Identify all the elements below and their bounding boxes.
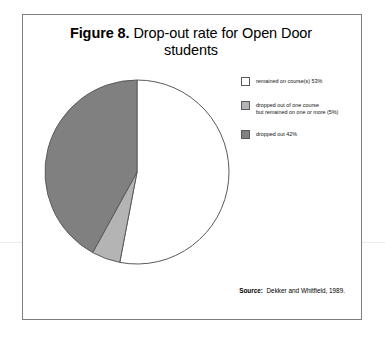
figure-caption: Drop-out rate for Open Door students: [133, 25, 312, 58]
legend: remained on course(s) 53% dropped out of…: [241, 77, 357, 154]
figure-frame: Figure 8. Drop-out rate for Open Door st…: [22, 14, 362, 320]
legend-swatch-remained-icon: [241, 77, 250, 86]
source-text: Dekker and Whitfield, 1989.: [266, 287, 345, 294]
pie-chart: [42, 77, 232, 267]
legend-item-label: remained on course(s) 53%: [256, 77, 322, 85]
legend-item-droppedout[interactable]: dropped out 42%: [241, 130, 357, 139]
page-title: Figure 8. Drop-out rate for Open Door st…: [41, 25, 341, 59]
legend-item-remained[interactable]: remained on course(s) 53%: [241, 77, 357, 86]
figure-label: Figure 8.: [70, 25, 130, 41]
legend-swatch-partial-icon: [241, 101, 250, 110]
source-attribution: Source: Dekker and Whitfield, 1989.: [23, 287, 345, 294]
pie-chart-svg: [42, 77, 232, 267]
legend-swatch-droppedout-icon: [241, 130, 250, 139]
legend-item-label: dropped out of one course but remained o…: [256, 101, 338, 115]
legend-item-label: dropped out 42%: [256, 130, 297, 138]
legend-item-partial[interactable]: dropped out of one course but remained o…: [241, 101, 357, 115]
source-label: Source:: [239, 287, 263, 294]
